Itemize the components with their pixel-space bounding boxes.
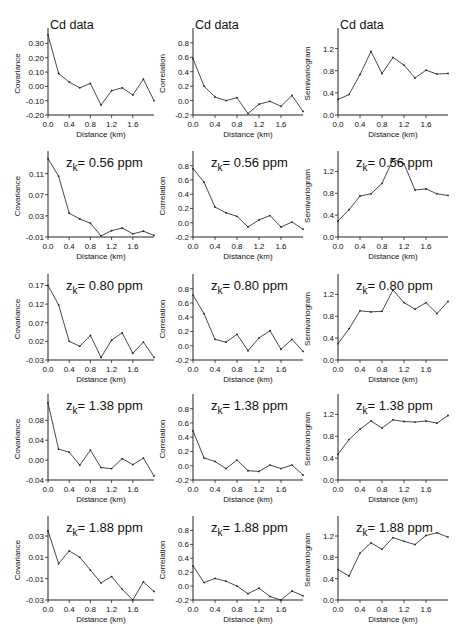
x-axis-label: Distance (km) (76, 252, 126, 261)
data-point (100, 104, 102, 106)
y-tick-label: 0.4 (178, 313, 190, 322)
y-tick-label: 0.8 (178, 285, 190, 294)
data-point (447, 73, 449, 75)
y-tick-label: 0.4 (178, 68, 190, 77)
data-point (153, 356, 155, 358)
panel-title: zk= 1.88 ppm (356, 520, 433, 538)
data-point (90, 83, 92, 85)
x-tick-label: 1.6 (420, 242, 432, 251)
y-tick-label: 0.04 (28, 436, 44, 445)
data-point (143, 230, 145, 232)
y-axis-label: Correlation (158, 176, 167, 215)
x-tick-label: 1.6 (127, 365, 139, 374)
x-tick-label: 0.8 (231, 365, 243, 374)
x-tick-label: 1.2 (106, 485, 118, 494)
data-point (192, 168, 194, 170)
x-tick-label: 0.8 (376, 485, 388, 494)
data-point (58, 175, 60, 177)
x-tick-label: 0.8 (85, 485, 97, 494)
x-tick-label: 1.2 (106, 120, 118, 129)
y-tick-label: 0.8 (323, 312, 335, 321)
y-axis-label: Semivariogram (303, 533, 312, 587)
data-point (121, 458, 123, 460)
x-tick-label: 0.8 (376, 242, 388, 251)
data-point (58, 73, 60, 75)
data-point (436, 532, 438, 534)
data-point (121, 87, 123, 89)
y-tick-label: 0.02 (28, 337, 44, 346)
data-point (121, 332, 123, 334)
chart-panel-4-1: -0.20.00.20.40.60.80.00.40.81.21.6Distan… (158, 516, 304, 624)
data-point (337, 99, 339, 101)
y-tick-label: 0.6 (178, 176, 190, 185)
data-point (381, 310, 383, 312)
data-point (302, 228, 304, 230)
y-tick-label: 0.4 (323, 211, 335, 220)
x-tick-label: 1.6 (127, 242, 139, 251)
data-point (121, 227, 123, 229)
data-line (193, 169, 303, 230)
y-tick-label: -0.2 (175, 356, 189, 365)
panel-title: zk= 1.88 ppm (66, 520, 143, 538)
data-point (247, 593, 249, 595)
data-point (302, 595, 304, 597)
data-point (192, 294, 194, 296)
y-tick-label: 0.12 (28, 300, 44, 309)
data-point (153, 591, 155, 593)
panel-title: zk= 0.56 ppm (211, 155, 288, 173)
data-point (392, 57, 394, 59)
x-axis-label: Distance (km) (223, 375, 273, 384)
chart-panel-0-0: -0.20-0.100.000.100.200.300.00.40.81.21.… (13, 18, 155, 139)
data-point (214, 338, 216, 340)
y-axis-label: Correlation (158, 299, 167, 338)
x-tick-label: 0.0 (187, 485, 199, 494)
data-point (47, 530, 49, 532)
x-tick-label: 0.8 (231, 120, 243, 129)
data-point (214, 461, 216, 463)
x-tick-label: 0.4 (64, 120, 76, 129)
data-point (153, 235, 155, 237)
y-tick-label: 0.8 (323, 67, 335, 76)
x-tick-label: 1.6 (420, 485, 432, 494)
data-point (143, 341, 145, 343)
data-point (414, 77, 416, 79)
data-point (348, 209, 350, 211)
data-line (338, 51, 448, 99)
data-point (79, 464, 81, 466)
data-point (111, 576, 113, 578)
data-point (291, 464, 293, 466)
x-tick-label: 1.2 (398, 365, 410, 374)
data-point (68, 340, 70, 342)
y-tick-label: 0.07 (28, 191, 44, 200)
panel-title: Cd data (195, 18, 239, 32)
x-tick-label: 0.8 (85, 242, 97, 251)
data-point (359, 74, 361, 76)
data-point (370, 311, 372, 313)
data-point (337, 343, 339, 345)
data-point (280, 599, 282, 601)
x-tick-label: 0.4 (64, 485, 76, 494)
y-axis-label: Correlation (158, 540, 167, 579)
x-tick-label: 1.6 (127, 485, 139, 494)
y-tick-label: 0.4 (323, 454, 335, 463)
x-tick-label: 0.4 (354, 365, 366, 374)
data-point (403, 421, 405, 423)
x-tick-label: 0.8 (231, 605, 243, 614)
data-line (48, 531, 154, 600)
x-tick-label: 0.0 (332, 242, 344, 251)
y-tick-label: 0.0 (178, 342, 190, 351)
x-axis-label: Distance (km) (76, 615, 126, 624)
data-point (258, 587, 260, 589)
data-point (111, 468, 113, 470)
data-point (258, 219, 260, 221)
x-tick-label: 0.4 (64, 365, 76, 374)
data-point (447, 301, 449, 303)
x-axis-label: Distance (km) (368, 615, 418, 624)
x-tick-label: 1.2 (253, 242, 265, 251)
data-point (58, 563, 60, 565)
data-point (302, 110, 304, 112)
data-point (100, 467, 102, 469)
y-tick-label: -0.04 (26, 476, 45, 485)
x-tick-label: 0.0 (42, 365, 54, 374)
data-line (338, 533, 448, 576)
